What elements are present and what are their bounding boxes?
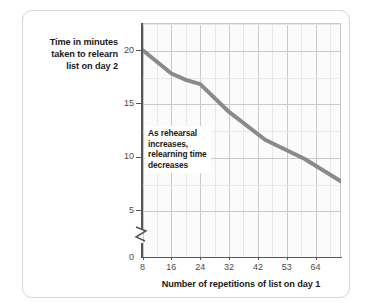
x-tick-mark [287,257,288,260]
y-axis-break-icon [133,226,151,246]
annotation-line-4: decreases [148,160,207,171]
y-axis-title: Time in minutes taken to relearn list on… [30,36,118,73]
x-tick-mark [200,257,201,260]
x-tick-mark [316,257,317,260]
y-tick-mark [136,157,141,158]
x-tick-label: 16 [159,262,183,272]
y-tick-label: 0 [110,252,134,262]
x-axis-title: Number of repetitions of list on day 1 [131,279,351,289]
y-axis-title-line-2: taken to relearn [30,48,118,60]
x-tick-mark [143,257,144,260]
y-tick-label: 15 [110,98,134,108]
y-axis-title-line-3: list on day 2 [30,60,118,72]
y-tick-mark [136,210,141,211]
x-tick-mark [229,257,230,260]
x-tick-mark [171,257,172,260]
y-tick-label: 5 [110,205,134,215]
line-chart: Time in minutes taken to relearn list on… [0,0,372,308]
x-tick-label: 42 [246,262,270,272]
y-tick-mark [136,50,141,51]
annotation-line-3: relearning time [148,149,207,160]
x-tick-mark [258,257,259,260]
x-tick-label: 32 [217,262,241,272]
x-tick-label: 64 [304,262,328,272]
y-tick-mark [136,103,141,104]
annotation-callout: As rehearsal increases, relearning time … [145,126,211,173]
x-tick-label: 24 [188,262,212,272]
x-tick-label: 8 [131,262,155,272]
y-tick-label: 10 [110,151,134,161]
y-axis-line [141,23,143,229]
y-axis-title-line-1: Time in minutes [30,36,118,48]
y-tick-label: 20 [110,45,134,55]
annotation-line-2: increases, [148,139,207,150]
annotation-line-1: As rehearsal [148,128,207,139]
x-tick-label: 53 [275,262,299,272]
